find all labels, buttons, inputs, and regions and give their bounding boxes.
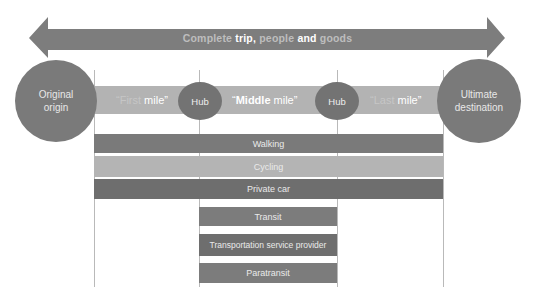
destination-line-2: destination <box>455 101 503 114</box>
arrow-word-people: people <box>256 32 294 44</box>
last-mile-word: Last <box>374 94 395 106</box>
first-mile-word: First <box>120 94 141 106</box>
hub-2-label: Hub <box>328 96 345 107</box>
mode-bar-transportation-service-provider: Transportation service provider <box>199 234 337 256</box>
destination-line-1: Ultimate <box>455 88 503 101</box>
arrow-word-trip: trip, <box>232 32 256 44</box>
hub-1: Hub <box>178 82 222 120</box>
mode-bar-cycling: Cycling <box>94 156 443 177</box>
mode-bar-private-car: Private car <box>94 179 443 199</box>
arrow-word-and: and <box>294 32 316 44</box>
middle-mile-label: “Middle mile” <box>232 94 297 106</box>
last-mile-label: “Last mile” <box>370 94 421 106</box>
arrow-word-complete: Complete <box>183 32 232 44</box>
original-origin-circle: Original origin <box>15 60 97 142</box>
hub-2: Hub <box>315 82 359 120</box>
origin-line-2: origin <box>39 101 73 114</box>
hub-1-label: Hub <box>191 96 208 107</box>
mode-bar-walking: Walking <box>94 134 443 153</box>
mode-bar-paratransit: Paratransit <box>199 263 337 283</box>
middle-mile-word: Middle <box>236 94 271 106</box>
ultimate-destination-circle: Ultimate destination <box>437 59 521 143</box>
first-mile-label: “First mile” <box>116 94 168 106</box>
origin-line-1: Original <box>39 88 73 101</box>
mode-bar-transit: Transit <box>199 207 337 226</box>
arrow-word-goods: goods <box>317 32 353 44</box>
complete-trip-label: Complete trip, people and goods <box>0 32 535 44</box>
